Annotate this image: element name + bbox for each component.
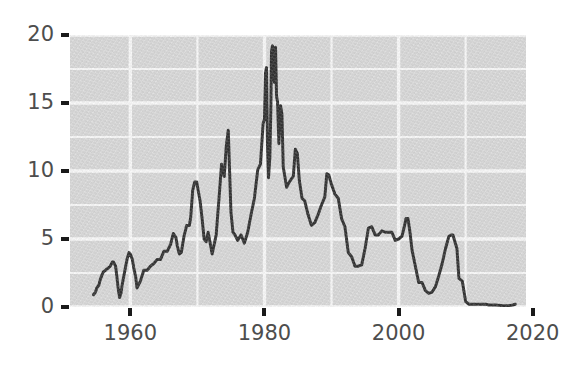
y-tickmark [61,169,69,173]
x-tick-label: 1960 [85,323,175,344]
y-tick-label: 20 [12,24,54,45]
x-tickmark [531,308,535,316]
y-tick-label: 0 [12,296,54,317]
y-tick-label: 15 [12,92,54,113]
y-tickmark [61,237,69,241]
series-line-rate [70,35,526,307]
x-tickmark [128,308,132,316]
y-tickmark [61,101,69,105]
chart-root: 05101520 1960198020002020 [0,0,578,371]
series-path [93,46,515,306]
y-tick-label: 5 [12,228,54,249]
x-tick-label: 2000 [354,323,444,344]
plot-panel [70,35,526,307]
y-tickmark [61,305,69,309]
x-tickmark [262,308,266,316]
y-tick-label: 10 [12,160,54,181]
x-tick-label: 1980 [219,323,309,344]
y-tickmark [61,33,69,37]
x-tick-label: 2020 [488,323,578,344]
x-tickmark [397,308,401,316]
